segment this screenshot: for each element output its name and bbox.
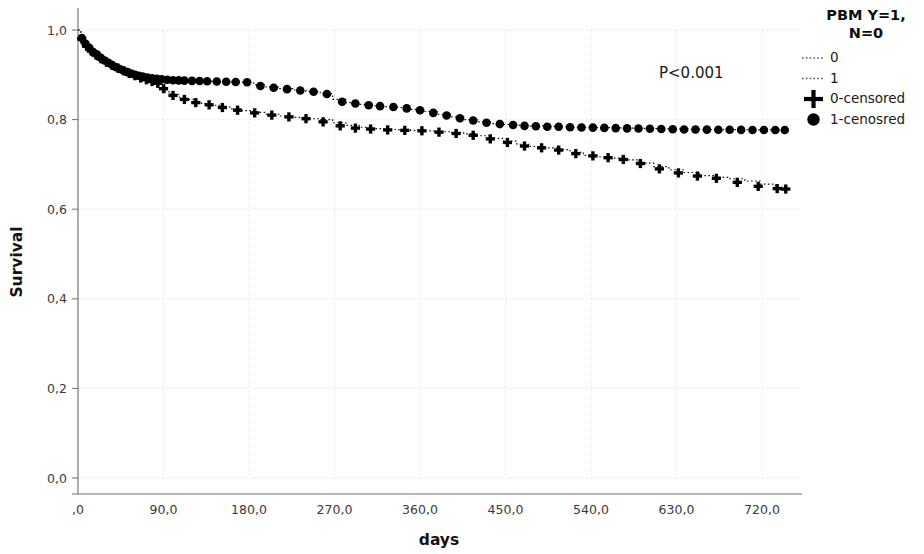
censor-circle-marker xyxy=(482,118,491,127)
y-tick-label-4: 0,8 xyxy=(47,112,67,127)
censor-circle-marker xyxy=(691,125,700,134)
legend-item-0[interactable]: 0 xyxy=(802,49,839,65)
censor-plus-marker xyxy=(469,131,478,140)
censor-plus-marker xyxy=(319,117,328,126)
censor-plus-marker xyxy=(284,112,293,121)
plus-icon xyxy=(804,90,823,108)
censor-circle-marker xyxy=(203,77,212,86)
censor-plus-marker xyxy=(604,153,613,162)
legend-title-line1: PBM Y=1, xyxy=(826,7,905,23)
x-tick-label-5: 450,0 xyxy=(488,502,524,517)
censor-plus-marker xyxy=(554,145,563,154)
censor-circle-marker xyxy=(532,122,541,131)
censor-circle-marker xyxy=(760,126,769,135)
x-tick-label-2: 180,0 xyxy=(231,502,267,517)
y-tick-label-2: 0,4 xyxy=(47,291,67,306)
x-axis-title: days xyxy=(419,531,459,549)
censor-plus-marker xyxy=(336,121,345,130)
censor-circle-marker xyxy=(256,82,265,91)
censor-plus-marker xyxy=(180,95,189,104)
censor-circle-marker xyxy=(714,125,723,134)
censor-circle-marker xyxy=(668,125,677,134)
legend-item-1-cenosred[interactable]: 1-cenosred xyxy=(807,111,905,127)
censor-circle-marker xyxy=(389,103,398,112)
y-tick-label-3: 0,6 xyxy=(47,202,67,217)
censor-circle-marker xyxy=(429,109,438,118)
censor-circle-marker xyxy=(771,126,780,135)
censor-circle-marker xyxy=(496,120,505,129)
legend: PBM Y=1, N=0 010-censored1-cenosred xyxy=(802,7,906,127)
x-tick-label-1: 90,0 xyxy=(150,502,178,517)
censor-circle-marker xyxy=(646,124,655,133)
x-tick-label-6: 540,0 xyxy=(573,502,609,517)
censor-circle-marker xyxy=(600,124,609,133)
censor-circle-marker xyxy=(623,124,632,133)
censor-plus-marker xyxy=(655,164,664,173)
censor-plus-marker xyxy=(452,129,461,138)
censor-circle-marker xyxy=(231,78,240,87)
censor-circle-marker xyxy=(589,123,598,132)
legend-item-label: 0 xyxy=(830,49,839,65)
censor-plus-marker xyxy=(434,128,443,137)
censor-plus-marker xyxy=(520,141,529,150)
censor-plus-marker xyxy=(233,106,242,115)
censor-circle-marker xyxy=(212,77,221,86)
censor-circle-marker xyxy=(577,123,586,132)
censor-plus-marker xyxy=(205,100,214,109)
censor-plus-marker xyxy=(301,114,310,123)
survival-plot-figure: 0,00,20,40,60,81,0,090,0180,0270,0360,04… xyxy=(0,0,924,554)
legend-item-label: 1 xyxy=(830,70,839,86)
censor-circle-marker xyxy=(442,111,451,120)
legend-item-1[interactable]: 1 xyxy=(802,70,839,86)
censor-circle-marker xyxy=(781,126,790,135)
censor-circle-marker xyxy=(680,125,689,134)
censor-plus-marker xyxy=(486,134,495,143)
legend-item-0-censored[interactable]: 0-censored xyxy=(804,90,905,108)
censor-plus-marker xyxy=(417,126,426,135)
censor-plus-marker xyxy=(588,151,597,160)
censor-plus-marker xyxy=(537,143,546,152)
censor-circle-marker xyxy=(566,123,575,132)
censor-circle-marker xyxy=(509,121,518,130)
censor-circle-marker xyxy=(180,76,189,85)
censor-circle-marker xyxy=(269,83,278,92)
x-tick-label-8: 720,0 xyxy=(744,502,780,517)
censor-circle-marker xyxy=(283,85,292,94)
censor-circle-marker xyxy=(338,97,347,106)
censor-circle-marker xyxy=(323,90,332,99)
censor-circle-marker xyxy=(402,104,411,113)
censor-circle-marker xyxy=(748,126,757,135)
y-axis-title: Survival xyxy=(8,226,26,297)
censor-circle-marker xyxy=(309,88,318,97)
censor-circle-marker xyxy=(351,99,360,108)
y-tick-label-1: 0,2 xyxy=(47,381,67,396)
y-tick-label-5: 1,0 xyxy=(47,23,67,38)
censor-circle-marker xyxy=(456,114,465,123)
censor-plus-marker xyxy=(267,111,276,120)
tick-labels: 0,00,20,40,60,81,0,090,0180,0270,0360,04… xyxy=(47,23,780,518)
tick-marks xyxy=(72,30,78,478)
censor-plus-marker xyxy=(619,155,628,164)
censor-circle-marker xyxy=(364,101,373,110)
censor-plus-marker xyxy=(693,171,702,180)
x-tick-label-7: 630,0 xyxy=(659,502,695,517)
censor-circle-marker xyxy=(296,86,305,95)
censor-plus-marker xyxy=(781,184,790,193)
censor-plus-marker xyxy=(218,103,227,112)
censor-plus-marker xyxy=(503,138,512,147)
censor-circle-marker xyxy=(188,77,197,86)
censor-plus-marker xyxy=(159,84,168,93)
censor-circle-marker xyxy=(611,124,620,133)
legend-item-label: 0-censored xyxy=(830,90,905,106)
y-tick-label-0: 0,0 xyxy=(47,471,67,486)
censor-circle-marker xyxy=(634,124,643,133)
censor-circle-marker xyxy=(520,122,529,131)
censor-circle-marker xyxy=(554,122,563,131)
x-tick-label-0: ,0 xyxy=(72,502,84,517)
censor-plus-marker xyxy=(571,149,580,158)
circle-icon xyxy=(807,113,819,125)
censor-plus-marker xyxy=(773,184,782,193)
legend-items: 010-censored1-cenosred xyxy=(802,49,905,127)
censor-plus-marker xyxy=(250,108,259,117)
censor-circle-marker xyxy=(725,126,734,135)
